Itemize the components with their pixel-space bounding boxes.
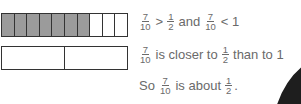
- empty-tenth-cell: [103, 14, 116, 36]
- closeness-statement: 710 is closer to 12 than to 1: [137, 45, 286, 64]
- fraction: 710: [159, 76, 172, 95]
- fraction: 710: [139, 12, 152, 31]
- fraction: 12: [225, 76, 232, 95]
- statement-text: So: [139, 78, 155, 93]
- empty-tenth-cell: [115, 14, 127, 36]
- empty-tenth-cell: [90, 14, 103, 36]
- statement-text: is about: [175, 78, 221, 93]
- shaded-tenth-cell: [15, 14, 28, 36]
- comparison-statement: 710 > 12 and 710 < 1: [137, 12, 241, 31]
- halves-fraction-bar: [1, 46, 128, 70]
- fraction: 12: [167, 12, 174, 31]
- less-than-one-text: < 1: [221, 14, 239, 29]
- fraction: 710: [204, 12, 217, 31]
- shaded-tenth-cell: [2, 14, 15, 36]
- conjunction-text: and: [178, 14, 200, 29]
- shaded-tenth-cell: [78, 14, 91, 36]
- half-cell: [2, 47, 65, 69]
- statement-text: is closer to: [156, 47, 218, 62]
- shaded-tenth-cell: [27, 14, 40, 36]
- fraction: 12: [222, 45, 229, 64]
- fraction: 710: [139, 45, 152, 64]
- greater-than-sign: >: [156, 14, 164, 29]
- shaded-tenth-cell: [52, 14, 65, 36]
- period: .: [234, 78, 238, 93]
- shaded-tenth-cell: [40, 14, 53, 36]
- conclusion-statement: So 710 is about 12 .: [137, 76, 238, 95]
- shaded-tenth-cell: [65, 14, 78, 36]
- statement-text: than to 1: [233, 47, 284, 62]
- half-cell: [65, 47, 127, 69]
- tenths-fraction-bar: [1, 13, 128, 37]
